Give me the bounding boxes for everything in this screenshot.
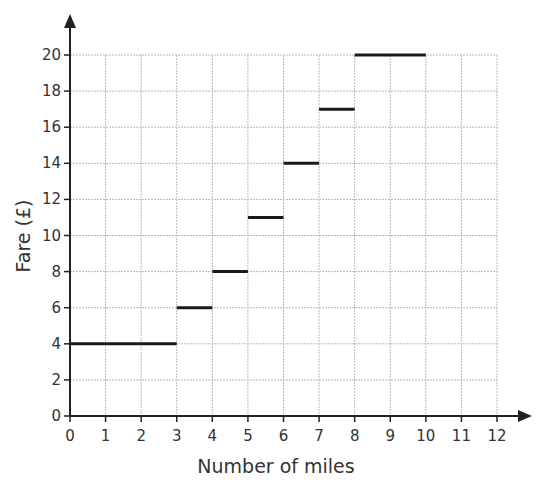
y-tick-label: 0 [51, 407, 61, 425]
y-axis-title: Fare (£) [12, 200, 34, 273]
grid-lines [70, 55, 497, 416]
x-tick-label: 3 [172, 427, 182, 445]
y-axis-ticks: 02468101214161820 [42, 46, 70, 425]
y-tick-label: 16 [42, 118, 61, 136]
y-axis-arrow-icon [64, 14, 76, 28]
x-axis-title: Number of miles [197, 455, 354, 477]
y-tick-label: 2 [51, 371, 61, 389]
x-tick-label: 7 [314, 427, 324, 445]
y-tick-label: 10 [42, 227, 61, 245]
y-tick-label: 20 [42, 46, 61, 64]
y-tick-label: 12 [42, 190, 61, 208]
x-tick-label: 0 [65, 427, 75, 445]
y-tick-label: 6 [51, 299, 61, 317]
x-tick-label: 8 [350, 427, 360, 445]
x-tick-label: 5 [243, 427, 253, 445]
x-tick-label: 11 [452, 427, 471, 445]
x-tick-label: 2 [136, 427, 146, 445]
x-tick-label: 9 [385, 427, 395, 445]
y-tick-label: 8 [51, 263, 61, 281]
y-tick-label: 14 [42, 154, 61, 172]
x-axis-arrow-icon [518, 410, 532, 422]
x-tick-label: 4 [208, 427, 218, 445]
step-chart: 0123456789101112 02468101214161820 Numbe… [0, 0, 536, 485]
y-tick-label: 18 [42, 82, 61, 100]
x-tick-label: 12 [487, 427, 506, 445]
x-tick-label: 1 [101, 427, 111, 445]
x-tick-label: 10 [416, 427, 435, 445]
x-axis-ticks: 0123456789101112 [65, 416, 506, 445]
x-tick-label: 6 [279, 427, 289, 445]
y-tick-label: 4 [51, 335, 61, 353]
